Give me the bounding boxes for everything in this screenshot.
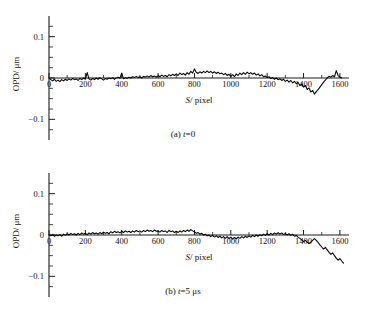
chart-panel-b: 020040060080010001200140016000.10−0.1 S/… <box>0 157 366 314</box>
x-tick-label: 0 <box>47 236 51 246</box>
x-tick-label: 600 <box>152 236 165 246</box>
caption-b-prefix: (b) <box>165 286 178 296</box>
caption-a-value: =0 <box>186 129 196 139</box>
y-tick-label: −0.1 <box>29 271 44 281</box>
y-tick-label: 0.1 <box>33 32 44 42</box>
y-tick-label: 0 <box>40 73 44 83</box>
caption-b-value: =5 μs <box>181 286 201 296</box>
y-axis-label: OPD/ μm <box>11 57 21 92</box>
x-axis-label: S/ pixel <box>185 252 213 262</box>
caption-a-prefix: (a) <box>171 129 183 139</box>
x-tick-label: 1200 <box>259 236 276 246</box>
y-axis-label: OPD/ μm <box>11 214 21 249</box>
x-tick-label: 1000 <box>222 79 239 89</box>
x-tick-label: 600 <box>152 79 165 89</box>
caption-panel-a: (a) t=0 <box>0 129 366 139</box>
x-axis-label: S/ pixel <box>185 95 213 105</box>
x-tick-label: 1600 <box>331 79 348 89</box>
x-tick-label: 200 <box>79 79 92 89</box>
x-tick-label: 0 <box>47 79 51 89</box>
x-tick-label: 1200 <box>259 79 276 89</box>
chart-panel-a: 020040060080010001200140016000.10−0.1 S/… <box>0 0 366 157</box>
x-tick-label: 1600 <box>331 236 348 246</box>
y-tick-label: 0.1 <box>33 189 44 199</box>
x-tick-label: 400 <box>115 236 128 246</box>
y-tick-label: 0 <box>40 230 44 240</box>
y-tick-label: −0.1 <box>29 114 44 124</box>
x-tick-label: 800 <box>188 79 201 89</box>
caption-panel-b: (b) t=5 μs <box>0 286 366 296</box>
x-tick-label: 200 <box>79 236 92 246</box>
x-tick-label: 400 <box>115 79 128 89</box>
x-tick-label: 800 <box>188 236 201 246</box>
